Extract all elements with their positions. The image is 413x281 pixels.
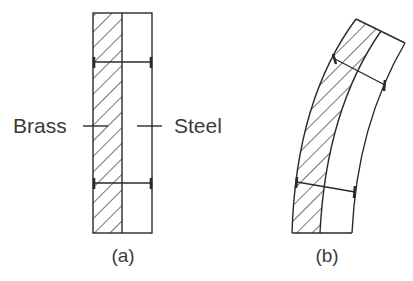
caption-a: (a) — [111, 245, 134, 266]
brass-layer-hatch-bent — [280, 10, 390, 240]
brass-layer-hatch — [93, 13, 122, 233]
brass-label: Brass — [13, 114, 67, 137]
caption-b: (b) — [315, 245, 338, 266]
steel-label: Steel — [174, 114, 222, 137]
panel-a-straight-strip: Brass Steel (a) — [13, 13, 222, 266]
panel-b-bent-strip: (b) — [280, 10, 405, 266]
bimetallic-strip-diagram: Brass Steel (a) (b) — [0, 0, 413, 281]
